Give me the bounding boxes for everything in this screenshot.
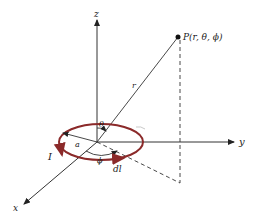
loop-radius-arrow [63, 133, 97, 142]
phi-arc [86, 151, 117, 156]
dl-label: dl [113, 164, 122, 174]
faint-mark [136, 127, 145, 129]
point-p-dot [176, 35, 181, 40]
z-axis-label: z [93, 9, 99, 19]
diagram-canvas: z y x P(r, θ, ϕ) r θ ϕ a I dl [0, 0, 257, 217]
dl-element-arrow [113, 158, 124, 159]
radius-vector-r [97, 37, 178, 142]
y-axis-label: y [238, 136, 245, 147]
current-i-label: I [47, 151, 53, 162]
a-label: a [75, 140, 80, 149]
x-axis-label: x [13, 203, 18, 213]
theta-label: θ [99, 120, 104, 129]
projection-ground-dashed [97, 142, 180, 183]
r-label: r [132, 81, 137, 90]
point-p-label: P(r, θ, ϕ) [182, 32, 223, 42]
current-direction-arrow [61, 150, 62, 155]
phi-label: ϕ [97, 156, 103, 165]
